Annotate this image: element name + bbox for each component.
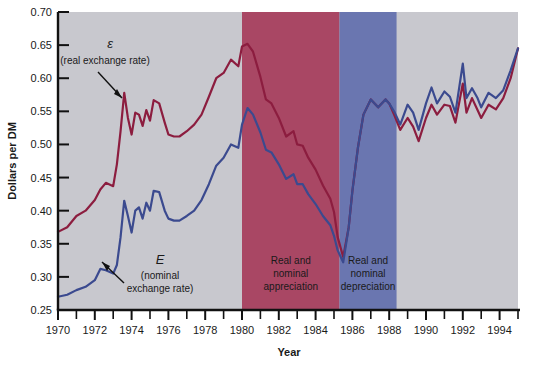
epsilon-symbol: ε bbox=[107, 36, 113, 51]
x-tick-label-1982: 1982 bbox=[267, 324, 291, 336]
x-axis-title: Year bbox=[277, 346, 301, 358]
x-tick-label-1976: 1976 bbox=[156, 324, 180, 336]
y-tick-label-0.60: 0.60 bbox=[31, 72, 52, 84]
y-tick-label-0.70: 0.70 bbox=[31, 6, 52, 18]
exchange-rate-chart: 0.250.300.350.400.450.500.550.600.650.70… bbox=[0, 0, 538, 366]
band-depreciation-label-line-3: depreciation bbox=[341, 281, 395, 292]
y-tick-label-0.65: 0.65 bbox=[31, 39, 52, 51]
e-symbol: E bbox=[156, 252, 165, 267]
y-tick-label-0.35: 0.35 bbox=[31, 238, 52, 250]
band-appreciation-label-line-1: Real and bbox=[271, 255, 311, 266]
y-tick-label-0.45: 0.45 bbox=[31, 172, 52, 184]
x-tick-label-1994: 1994 bbox=[487, 324, 511, 336]
x-tick-label-1970: 1970 bbox=[46, 324, 70, 336]
x-tick-label-1980: 1980 bbox=[230, 324, 254, 336]
y-axis-tick-labels: 0.250.300.350.400.450.500.550.600.650.70 bbox=[31, 6, 52, 316]
y-tick-label-0.30: 0.30 bbox=[31, 271, 52, 283]
x-tick-label-1986: 1986 bbox=[340, 324, 364, 336]
y-tick-label-0.50: 0.50 bbox=[31, 138, 52, 150]
x-tick-label-1990: 1990 bbox=[414, 324, 438, 336]
band-depreciation-label-line-2: nominal bbox=[351, 268, 386, 279]
x-axis-ticks bbox=[58, 310, 518, 320]
x-tick-label-1992: 1992 bbox=[451, 324, 475, 336]
x-tick-label-1988: 1988 bbox=[377, 324, 401, 336]
x-tick-label-1972: 1972 bbox=[83, 324, 107, 336]
y-tick-label-0.40: 0.40 bbox=[31, 205, 52, 217]
band-appreciation-label-line-2: nominal bbox=[273, 268, 308, 279]
y-tick-label-0.25: 0.25 bbox=[31, 304, 52, 316]
y-tick-label-0.55: 0.55 bbox=[31, 105, 52, 117]
x-tick-label-1984: 1984 bbox=[303, 324, 327, 336]
band-depreciation-label-line-1: Real and bbox=[348, 255, 388, 266]
real-rate-caption: (real exchange rate) bbox=[60, 55, 150, 66]
nominal-rate-caption-line-2: exchange rate) bbox=[127, 283, 194, 294]
x-axis-tick-labels: 1970197219741976197819801982198419861988… bbox=[46, 324, 512, 336]
nominal-rate-caption-line-1: (nominal bbox=[141, 270, 179, 281]
y-axis-title: Dollars per DM bbox=[6, 122, 18, 200]
band-appreciation-label-line-3: appreciation bbox=[264, 281, 318, 292]
chart-canvas: 0.250.300.350.400.450.500.550.600.650.70… bbox=[0, 0, 538, 366]
x-tick-label-1978: 1978 bbox=[193, 324, 217, 336]
x-tick-label-1974: 1974 bbox=[119, 324, 143, 336]
